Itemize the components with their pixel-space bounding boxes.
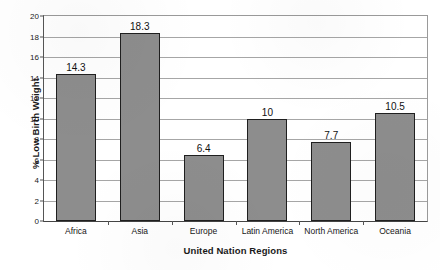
- y-tick-mark: [40, 16, 44, 17]
- bar-value-label: 10: [262, 107, 273, 118]
- y-tick-label: 16: [17, 53, 39, 62]
- x-axis-title: United Nation Regions: [43, 245, 428, 256]
- x-category-label: Asia: [131, 226, 148, 236]
- x-tick-mark: [299, 221, 300, 225]
- y-tick-mark: [40, 98, 44, 99]
- x-category-label: Africa: [65, 226, 87, 236]
- bar: 18.3: [120, 33, 160, 221]
- y-tick-mark: [40, 180, 44, 181]
- y-tick-mark: [40, 118, 44, 119]
- bar: 7.7: [311, 142, 351, 221]
- bar-value-label: 10.5: [385, 101, 404, 112]
- y-tick-label: 10: [17, 114, 39, 123]
- bar-value-label: 14.3: [66, 62, 85, 73]
- y-tick-label: 20: [17, 12, 39, 21]
- y-tick-label: 2: [17, 196, 39, 205]
- bar: 6.4: [184, 155, 224, 221]
- gridline: [44, 201, 427, 202]
- bar-value-label: 7.7: [324, 130, 338, 141]
- y-tick-label: 18: [17, 32, 39, 41]
- gridline: [44, 139, 427, 140]
- x-tick-mark: [236, 221, 237, 225]
- gridline: [44, 37, 427, 38]
- gridline: [44, 119, 427, 120]
- bar-value-label: 6.4: [197, 143, 211, 154]
- gridline: [44, 57, 427, 58]
- y-tick-label: 0: [17, 217, 39, 226]
- y-tick-label: 14: [17, 73, 39, 82]
- x-category-label: Europe: [190, 226, 217, 236]
- gridline: [44, 160, 427, 161]
- y-tick-mark: [40, 159, 44, 160]
- y-tick-label: 8: [17, 135, 39, 144]
- y-tick-mark: [40, 36, 44, 37]
- bar: 14.3: [56, 74, 96, 221]
- bar: 10.5: [375, 113, 415, 221]
- y-tick-mark: [40, 221, 44, 222]
- bar: 10: [247, 119, 287, 222]
- y-tick-label: 4: [17, 176, 39, 185]
- x-tick-mark: [108, 221, 109, 225]
- bar-value-label: 18.3: [130, 21, 149, 32]
- gridline: [44, 78, 427, 79]
- x-category-label: North America: [304, 226, 358, 236]
- bar-chart: % Low Birth Weight 02468101214161820 14.…: [0, 0, 440, 270]
- y-tick-mark: [40, 77, 44, 78]
- x-category-label: Oceania: [379, 226, 411, 236]
- gridline: [44, 98, 427, 99]
- x-tick-mark: [172, 221, 173, 225]
- y-tick-mark: [40, 200, 44, 201]
- y-tick-mark: [40, 139, 44, 140]
- gridline: [44, 180, 427, 181]
- y-tick-label: 12: [17, 94, 39, 103]
- x-tick-mark: [363, 221, 364, 225]
- plot-area: 02468101214161820 14.318.36.4107.710.5 A…: [43, 15, 428, 222]
- y-tick-label: 6: [17, 155, 39, 164]
- x-category-label: Latin America: [242, 226, 294, 236]
- y-tick-mark: [40, 57, 44, 58]
